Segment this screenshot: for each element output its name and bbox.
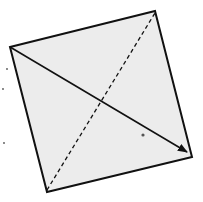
speck-dot [2,88,4,90]
diagram-canvas [0,0,203,202]
speck-dot [141,133,144,136]
speck-dot [3,142,5,144]
speck-dot [6,68,8,70]
square-diagonals-diagram [0,0,203,202]
